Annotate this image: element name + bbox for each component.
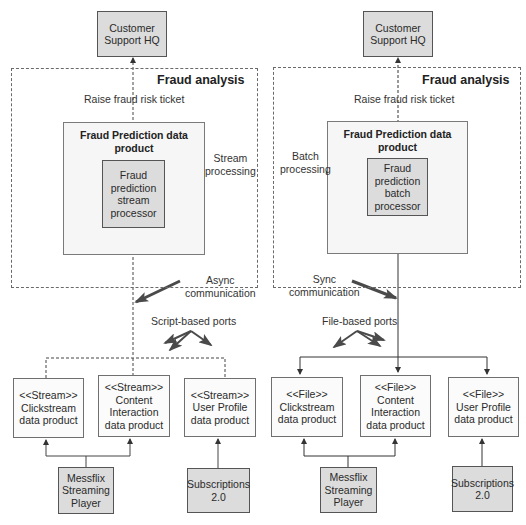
left-ports-label: Script-based ports	[151, 315, 236, 328]
left-frame-title: Fraud analysis	[157, 73, 245, 87]
right-processor-label: Fraud prediction batch processor	[374, 162, 420, 212]
left-user-profile-label: <<Stream>> User Profile data product	[191, 389, 249, 427]
left-stream-processor: Fraud prediction stream processor	[102, 160, 165, 228]
right-communication-label: Sync communication	[289, 273, 360, 298]
right-ports-label: File-based ports	[322, 315, 397, 328]
left-messflix-player: Messflix Streaming Player	[58, 467, 114, 514]
left-content-label: <<Stream>> Content Interaction data prod…	[105, 381, 163, 431]
left-processor-label: Fraud prediction stream processor	[110, 169, 156, 219]
left-clickstream-label: <<Stream>> Clickstream data product	[19, 389, 77, 427]
left-communication-label: Async communication	[185, 274, 256, 299]
left-product-title: Fraud Prediction data product	[64, 129, 204, 155]
right-content-interaction-product: <<File>> Content Interaction data produc…	[360, 375, 431, 437]
left-subscriptions-label: Subscriptions 2.0	[187, 478, 250, 503]
left-ticket-label: Raise fraud risk ticket	[84, 93, 184, 106]
right-messflix-label: Messflix Streaming Player	[325, 471, 373, 509]
left-content-interaction-product: <<Stream>> Content Interaction data prod…	[98, 375, 170, 437]
right-subscriptions: Subscriptions 2.0	[452, 466, 513, 512]
right-hq-label: Customer Support HQ	[370, 22, 425, 47]
left-hq-label: Customer Support HQ	[104, 22, 159, 47]
right-messflix-player: Messflix Streaming Player	[320, 467, 377, 513]
right-product-title: Fraud Prediction data product	[328, 128, 467, 154]
right-content-label: <<File>> Content Interaction data produc…	[366, 381, 424, 431]
left-clickstream-product: <<Stream>> Clickstream data product	[13, 378, 84, 438]
right-clickstream-label: <<File>> Clickstream data product	[278, 388, 336, 426]
right-batch-processor: Fraud prediction batch processor	[367, 158, 428, 216]
left-processing-label: Stream processing	[205, 152, 256, 177]
right-customer-support-hq: Customer Support HQ	[363, 11, 433, 57]
right-ticket-label: Raise fraud risk ticket	[354, 93, 454, 106]
right-subscriptions-label: Subscriptions 2.0	[451, 477, 514, 502]
left-user-profile-product: <<Stream>> User Profile data product	[184, 378, 256, 437]
right-processing-label: Batch processing	[280, 150, 331, 175]
left-messflix-label: Messflix Streaming Player	[62, 472, 110, 510]
right-user-profile-label: <<File>> User Profile data product	[454, 388, 512, 426]
left-customer-support-hq: Customer Support HQ	[97, 11, 167, 57]
left-subscriptions: Subscriptions 2.0	[187, 468, 250, 513]
right-clickstream-product: <<File>> Clickstream data product	[271, 377, 343, 437]
right-user-profile-product: <<File>> User Profile data product	[448, 377, 519, 437]
right-frame-title: Fraud analysis	[422, 73, 510, 87]
